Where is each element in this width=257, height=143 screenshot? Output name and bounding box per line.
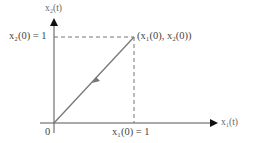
x-axis-label: x₁(t) [221,117,238,127]
phase-diagram [0,0,257,143]
y-tick-label: x₂(0) = 1 [9,30,47,41]
y-axis-label: x₂(t) [45,3,62,13]
point-label: (x₁(0), x₂(0)) [137,30,192,41]
x-tick-label: x₁(0) = 1 [112,126,150,137]
origin-label: 0 [45,126,50,137]
